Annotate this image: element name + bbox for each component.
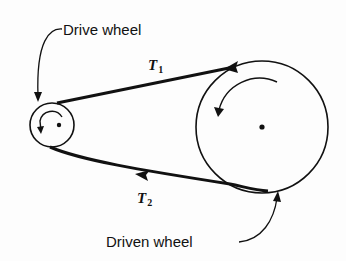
belt-top-span — [57, 67, 234, 103]
drive-wheel-hub — [57, 123, 61, 127]
driven-rotation-arrowhead-icon — [214, 107, 224, 117]
tension-t1-symbol: T — [148, 57, 157, 73]
driven-wheel-label: Driven wheel — [106, 233, 193, 250]
drive-wheel — [30, 103, 74, 147]
driven-wheel-leader — [239, 198, 277, 242]
drive-wheel-leader — [38, 29, 62, 96]
drive-wheel-label: Drive wheel — [63, 21, 141, 38]
drive-rotation-arrowhead-icon — [37, 126, 44, 134]
driven-wheel-rotation-arrow — [219, 78, 277, 110]
tension-t1-subscript: 1 — [158, 64, 163, 75]
tension-t2-symbol: T — [137, 190, 146, 206]
drive-wheel-rotation-arrow — [40, 111, 62, 131]
belt-drive-diagram: Drive wheel T1 T2 Driven wheel — [0, 0, 346, 261]
tension-t2-subscript: 2 — [147, 197, 152, 208]
tension-t2-label: T2 — [137, 190, 152, 208]
driven-wheel-hub — [259, 124, 264, 129]
drive-leader-arrowhead-icon — [34, 92, 42, 102]
belt-bottom-span — [50, 147, 268, 191]
belt-bottom-arrow-icon — [135, 170, 150, 181]
tension-t1-label: T1 — [148, 57, 163, 75]
diagram-drawing — [0, 0, 346, 261]
